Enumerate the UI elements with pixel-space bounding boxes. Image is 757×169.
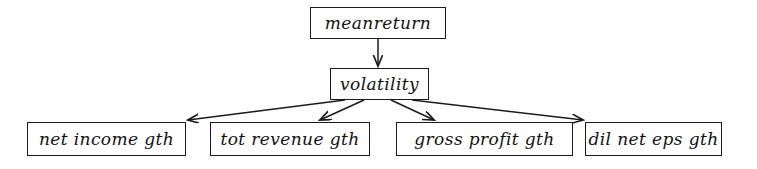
edge-volatility-to-net-income-gth xyxy=(188,100,345,120)
edge-volatility-to-dil-net-eps-gth xyxy=(412,100,583,120)
diagram-canvas: meanreturn volatility net income gth tot… xyxy=(0,0,757,169)
node-gross-profit-gth-label: gross profit gth xyxy=(414,131,554,148)
edge-volatility-to-tot-revenue-gth xyxy=(320,100,364,120)
node-dil-net-eps-gth-label: dil net eps gth xyxy=(588,131,718,148)
node-gross-profit-gth[interactable]: gross profit gth xyxy=(396,122,573,156)
node-net-income-gth[interactable]: net income gth xyxy=(27,122,186,156)
node-dil-net-eps-gth[interactable]: dil net eps gth xyxy=(585,122,722,156)
node-volatility-label: volatility xyxy=(340,76,419,93)
node-tot-revenue-gth-label: tot revenue gth xyxy=(220,131,359,148)
node-tot-revenue-gth[interactable]: tot revenue gth xyxy=(210,122,370,156)
node-meanreturn-label: meanreturn xyxy=(325,15,431,32)
edge-volatility-to-gross-profit-gth xyxy=(391,100,434,120)
node-net-income-gth-label: net income gth xyxy=(39,131,174,148)
node-volatility[interactable]: volatility xyxy=(330,68,429,100)
node-meanreturn[interactable]: meanreturn xyxy=(310,7,446,39)
